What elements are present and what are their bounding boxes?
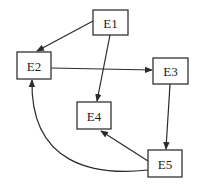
edge-e3-to-e5 [166, 84, 170, 149]
node-label: E5 [158, 157, 172, 172]
node-e4: E4 [77, 102, 111, 129]
node-label: E2 [27, 59, 41, 74]
nodes-layer: E1E2E3E4E5 [17, 10, 188, 177]
node-e3: E3 [153, 58, 188, 84]
node-label: E1 [103, 16, 117, 31]
edge-e1-to-e2 [37, 21, 93, 51]
edge-e2-to-e3 [51, 68, 152, 70]
node-e5: E5 [148, 150, 182, 177]
node-label: E4 [87, 109, 102, 124]
directed-graph-diagram: E1E2E3E4E5 [0, 0, 198, 188]
node-e1: E1 [93, 10, 128, 35]
edge-e5-to-e4 [101, 131, 148, 161]
node-label: E3 [163, 64, 177, 79]
edges-layer [32, 21, 170, 171]
edge-e1-to-e4 [97, 35, 110, 101]
node-e2: E2 [17, 52, 51, 79]
